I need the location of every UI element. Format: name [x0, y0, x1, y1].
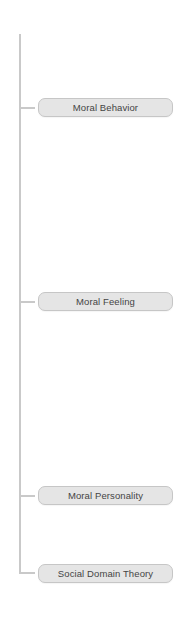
branch-connector-end — [19, 572, 35, 574]
node-moral-behavior[interactable]: Moral Behavior — [38, 98, 173, 117]
node-label: Social Domain Theory — [58, 568, 153, 579]
node-social-domain-theory[interactable]: Social Domain Theory — [38, 564, 173, 583]
node-moral-feeling[interactable]: Moral Feeling — [38, 292, 173, 311]
tree-trunk-line — [19, 34, 21, 574]
branch-connector — [19, 301, 35, 303]
branch-connector — [19, 495, 35, 497]
node-label: Moral Behavior — [73, 102, 138, 113]
node-label: Moral Personality — [68, 490, 143, 501]
branch-connector — [19, 107, 35, 109]
node-moral-personality[interactable]: Moral Personality — [38, 486, 173, 505]
node-label: Moral Feeling — [76, 296, 135, 307]
